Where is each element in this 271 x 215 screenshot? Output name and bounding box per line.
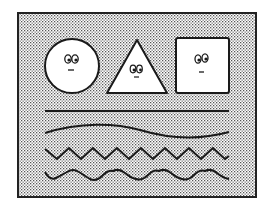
illustration-canvas — [0, 0, 271, 215]
square-face — [176, 38, 229, 93]
circle-face — [45, 39, 99, 93]
square-shape — [176, 38, 229, 93]
circle-shape — [45, 39, 99, 93]
